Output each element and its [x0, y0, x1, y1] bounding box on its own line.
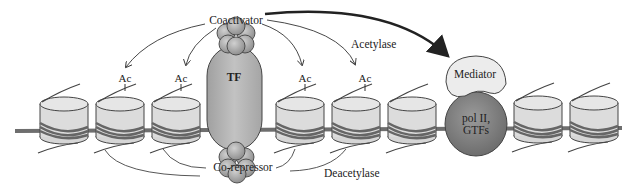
nucleosome: [38, 84, 88, 153]
nucleosome: [512, 83, 562, 152]
chromatin-regulation-diagram: Coactivator Co-repressor TF Acetylase De…: [0, 0, 627, 187]
nucleosome: [274, 84, 324, 153]
nucleosome: [94, 84, 144, 153]
coactivator-label: Coactivator: [209, 14, 263, 26]
gtfs-label: GTFs: [463, 124, 490, 136]
nucleosome: [386, 84, 436, 153]
nucleosome: [330, 84, 380, 153]
nucleosome: [150, 84, 200, 153]
corepressor-label: Co-repressor: [213, 161, 273, 174]
ac-label: Ac: [359, 72, 372, 84]
ac-label: Ac: [299, 72, 312, 84]
ac-label: Ac: [175, 72, 188, 84]
acetylase-label: Acetylase: [351, 38, 396, 51]
nucleosomes: [38, 83, 618, 153]
transcription-factor: [207, 46, 262, 150]
ac-label: Ac: [119, 72, 132, 84]
mediator-label: Mediator: [454, 68, 496, 80]
tf-label: TF: [227, 71, 242, 83]
nucleosome: [568, 83, 618, 152]
deacetylase-label: Deacetylase: [324, 167, 380, 180]
